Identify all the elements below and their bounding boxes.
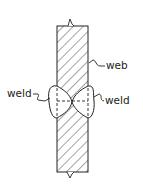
web-label: web bbox=[106, 59, 128, 71]
web-leader bbox=[89, 60, 105, 66]
weld-left-leader bbox=[33, 94, 50, 101]
web-weld-diagram: web weld weld bbox=[0, 0, 143, 192]
weld-right-leader bbox=[94, 94, 104, 101]
break-mark-top bbox=[68, 19, 74, 26]
weld-left-label: weld bbox=[7, 87, 32, 99]
break-mark-bottom bbox=[67, 172, 74, 178]
weld-right-label: weld bbox=[105, 94, 130, 106]
